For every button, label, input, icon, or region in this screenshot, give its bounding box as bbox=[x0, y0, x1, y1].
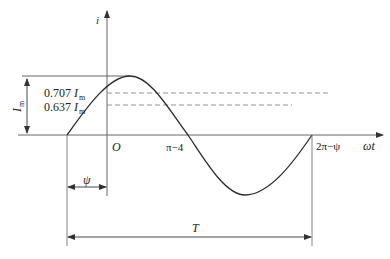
period-label: T bbox=[192, 221, 200, 235]
svg-text:0.637: 0.637 bbox=[44, 100, 71, 114]
half-period-label: π−4 bbox=[166, 141, 184, 153]
svg-text:0.707: 0.707 bbox=[44, 86, 71, 100]
average-label: 0.637 I m bbox=[44, 100, 86, 116]
waveform-canvas: i ωt O I m 0.707 I m 0.637 I m π−4 2π−ψ … bbox=[0, 0, 390, 259]
x-axis-label: ωt bbox=[363, 139, 375, 153]
svg-text:m: m bbox=[79, 107, 86, 116]
sine-waveform-diagram: i ωt O I m 0.707 I m 0.637 I m π−4 2π−ψ … bbox=[0, 0, 390, 259]
phase-label: ψ bbox=[83, 173, 91, 187]
origin-label: O bbox=[112, 140, 121, 154]
svg-text:m: m bbox=[79, 93, 86, 102]
svg-text:m: m bbox=[17, 100, 26, 107]
full-period-label: 2π−ψ bbox=[316, 140, 340, 152]
y-axis-label: i bbox=[96, 14, 99, 26]
amplitude-label: I m bbox=[10, 100, 26, 113]
